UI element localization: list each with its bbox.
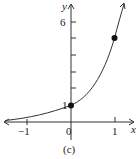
x-tick-label-neg1: −1 — [18, 125, 30, 137]
x-tick-label-1: 1 — [112, 125, 118, 137]
y-tick-label-6: 6 — [60, 16, 66, 28]
point-0-1 — [68, 103, 74, 109]
figure-caption: (c) — [63, 143, 76, 156]
exponential-graph: y x 6 1 −1 0 1 (c) — [0, 0, 138, 159]
point-1-5 — [112, 35, 118, 41]
x-axis-label: x — [130, 123, 136, 135]
y-tick-label-1: 1 — [62, 99, 68, 111]
y-axis-label: y — [61, 0, 67, 12]
x-tick-label-0: 0 — [66, 125, 72, 137]
